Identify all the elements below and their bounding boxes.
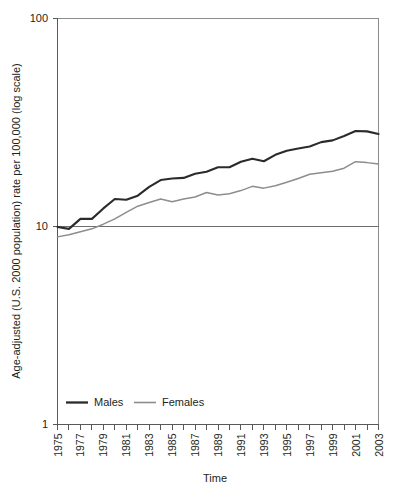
x-tick-label: 1991 bbox=[235, 433, 247, 457]
y-tick-label-100: 100 bbox=[30, 12, 48, 24]
x-tick-label: 1993 bbox=[258, 433, 270, 457]
x-tick-label: 1987 bbox=[189, 433, 201, 457]
y-axis-ticks bbox=[53, 19, 58, 425]
x-axis-title: Time bbox=[203, 472, 227, 484]
legend-label-females: Females bbox=[162, 396, 205, 408]
series-line-males bbox=[58, 131, 379, 229]
x-tick-label: 2003 bbox=[373, 433, 385, 457]
x-tick-label: 1995 bbox=[281, 433, 293, 457]
x-tick-label: 1975 bbox=[52, 433, 64, 457]
y-axis-title: Age-adjusted (U.S. 2000 population) rate… bbox=[10, 63, 22, 379]
chart-container: 100 10 1 Age-adjusted (U.S. 2000 populat… bbox=[0, 0, 395, 491]
y-tick-label-1: 1 bbox=[42, 418, 48, 430]
x-tick-label: 1997 bbox=[304, 433, 316, 457]
x-axis-ticks bbox=[58, 425, 379, 430]
x-axis-tick-labels: 1975197719791981198319851987198919911993… bbox=[52, 433, 385, 457]
x-tick-label: 1979 bbox=[97, 433, 109, 457]
x-tick-label: 2001 bbox=[350, 433, 362, 457]
x-tick-label: 1989 bbox=[212, 433, 224, 457]
x-tick-label: 1977 bbox=[74, 433, 86, 457]
chart-legend: Males Females bbox=[66, 396, 205, 408]
x-tick-label: 1999 bbox=[327, 433, 339, 457]
series-line-females bbox=[58, 162, 379, 237]
x-tick-label: 1985 bbox=[166, 433, 178, 457]
x-tick-label: 1981 bbox=[120, 433, 132, 457]
legend-label-males: Males bbox=[94, 396, 124, 408]
y-tick-label-10: 10 bbox=[36, 220, 48, 232]
line-chart: 100 10 1 Age-adjusted (U.S. 2000 populat… bbox=[0, 0, 395, 491]
x-tick-label: 1983 bbox=[143, 433, 155, 457]
plot-frame bbox=[58, 19, 379, 425]
